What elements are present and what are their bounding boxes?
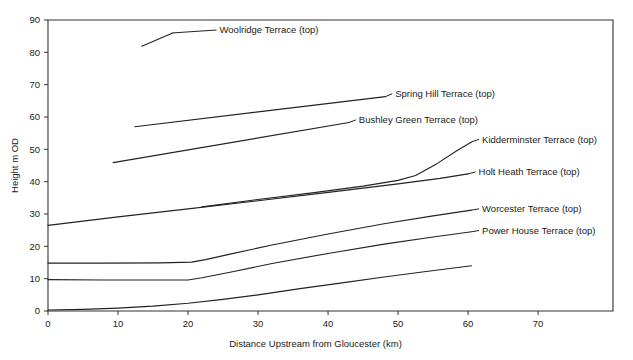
series-label-bushley-green-terrace-top: Bushley Green Terrace (top) bbox=[359, 114, 478, 125]
y-tick-label-90: 90 bbox=[29, 14, 40, 25]
terrace-long-profile-chart: 0102030405060708090010203040506070 Woolr… bbox=[0, 0, 633, 360]
series-line-unlabelled-basal-terrace bbox=[48, 266, 472, 310]
y-tick-label-70: 70 bbox=[29, 79, 40, 90]
series-label-holt-heath-terrace-top: Holt Heath Terrace (top) bbox=[479, 166, 580, 177]
x-tick-label-10: 10 bbox=[113, 318, 124, 329]
x-tick-label-30: 30 bbox=[253, 318, 264, 329]
y-tick-label-0: 0 bbox=[35, 305, 40, 316]
y-tick-label-60: 60 bbox=[29, 111, 40, 122]
label-leader-kidderminster-terrace-top bbox=[472, 139, 480, 142]
y-tick-label-50: 50 bbox=[29, 144, 40, 155]
x-tick-label-70: 70 bbox=[533, 318, 544, 329]
series-line-woolridge-terrace-top bbox=[142, 33, 173, 46]
series-label-worcester-terrace-top: Worcester Terrace (top) bbox=[482, 203, 581, 214]
chart-container: 0102030405060708090010203040506070 Woolr… bbox=[0, 0, 633, 360]
y-tick-label-80: 80 bbox=[29, 47, 40, 58]
label-leader-spring-hill-terrace-top bbox=[385, 94, 392, 97]
series-line-power-house-terrace-top bbox=[48, 232, 472, 280]
label-leader-holt-heath-terrace-top bbox=[468, 172, 476, 174]
series-label-kidderminster-terrace-top: Kidderminster Terrace (top) bbox=[482, 134, 597, 145]
series-label-power-house-terrace-top: Power House Terrace (top) bbox=[482, 225, 595, 236]
label-leader-bushley-green-terrace-top bbox=[349, 120, 356, 123]
series-label-spring-hill-terrace-top: Spring Hill Terrace (top) bbox=[395, 88, 495, 99]
y-tick-label-30: 30 bbox=[29, 208, 40, 219]
y-tick-label-40: 40 bbox=[29, 176, 40, 187]
y-tick-label-10: 10 bbox=[29, 273, 40, 284]
label-leader-power-house-terrace-top bbox=[472, 230, 480, 231]
x-tick-label-40: 40 bbox=[323, 318, 334, 329]
label-leader-worcester-terrace-top bbox=[472, 209, 480, 210]
x-tick-label-60: 60 bbox=[463, 318, 474, 329]
x-axis-title: Distance Upstream from Gloucester (km) bbox=[229, 338, 402, 349]
x-tick-label-20: 20 bbox=[183, 318, 194, 329]
series-label-woolridge-terrace-top: Woolridge Terrace (top) bbox=[220, 24, 319, 35]
series-line-kidderminster-terrace-top bbox=[202, 142, 472, 207]
y-tick-label-20: 20 bbox=[29, 241, 40, 252]
x-tick-label-50: 50 bbox=[393, 318, 404, 329]
axis-titles: Distance Upstream from Gloucester (km)He… bbox=[9, 138, 402, 349]
x-tick-label-0: 0 bbox=[45, 318, 50, 329]
series-line-bushley-green-terrace-top bbox=[113, 123, 349, 163]
y-axis-title: Height m OD bbox=[9, 138, 20, 193]
label-leader-woolridge-terrace-top bbox=[173, 30, 217, 33]
series-lines bbox=[48, 33, 472, 310]
series-labels: Woolridge Terrace (top)Spring Hill Terra… bbox=[173, 24, 597, 235]
